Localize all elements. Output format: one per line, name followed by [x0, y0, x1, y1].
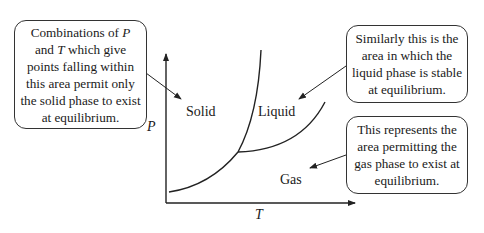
solid-callout-arrow — [146, 73, 181, 99]
solid-callout: Combinations of P and T which give point… — [14, 20, 147, 129]
liquid-callout-text: Similarly this is the area in which the … — [351, 30, 463, 98]
gas-callout-arrow — [310, 155, 346, 168]
solid-region-label: Solid — [186, 104, 216, 120]
gas-region-label: Gas — [280, 172, 302, 188]
liquid-callout: Similarly this is the area in which the … — [346, 25, 468, 103]
var-t: T — [57, 42, 64, 57]
gas-callout-text: This represents the area permitting the … — [351, 121, 463, 189]
solid-callout-text-pre: Combinations of — [31, 25, 123, 40]
liquid-callout-arrow — [299, 66, 346, 99]
melting-curve — [238, 50, 261, 152]
var-p: P — [122, 25, 130, 40]
solid-callout-text: Combinations of P and T which give point… — [19, 24, 142, 126]
y-axis-label: P — [147, 119, 156, 135]
x-axis-label: T — [255, 207, 263, 223]
solid-callout-text-mid: and — [35, 42, 57, 57]
gas-callout: This represents the area permitting the … — [346, 116, 468, 194]
liquid-region-label: Liquid — [258, 104, 295, 120]
sublimation-curve — [169, 152, 238, 192]
